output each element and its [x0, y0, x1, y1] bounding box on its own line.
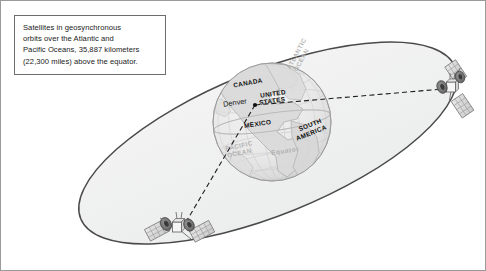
denver-marker — [253, 103, 257, 107]
caption-box: Satellites in geosynchronous orbits over… — [14, 15, 166, 75]
diagram-figure: CANADA UNITED STATES Denver MEXICO SOUTH… — [0, 0, 486, 271]
caption-text: Satellites in geosynchronous orbits over… — [23, 22, 158, 67]
